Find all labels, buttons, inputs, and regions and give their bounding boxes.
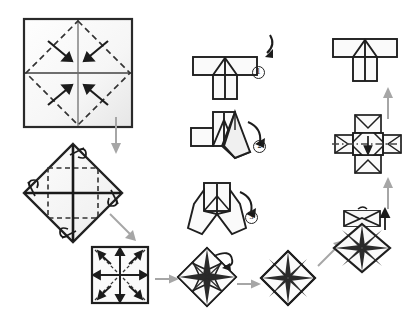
step-4-pinwheel-star — [174, 244, 242, 310]
marker-2-label: 2 — [253, 140, 266, 153]
step-5-pinwheel-flat — [258, 248, 318, 308]
origami-diagram-canvas: 1 2 3 — [0, 0, 416, 317]
flow-up-2 — [380, 86, 396, 120]
flow-diagonal-left — [108, 212, 142, 246]
marker-3: 3 — [245, 211, 258, 224]
fold-arrow-1 — [248, 33, 276, 61]
step-1-square-creases — [22, 17, 134, 129]
step-7-cross-model — [332, 112, 404, 176]
step-3-small-square-creases — [90, 245, 150, 305]
step-6-hooded-pinwheel — [328, 206, 396, 276]
flow-up-1 — [380, 176, 396, 210]
marker-3-label: 3 — [245, 211, 258, 224]
step-8-t-shape-final — [330, 36, 400, 84]
marker-1-label: 1 — [252, 66, 265, 79]
marker-1: 1 — [252, 66, 265, 79]
marker-2: 2 — [253, 140, 266, 153]
